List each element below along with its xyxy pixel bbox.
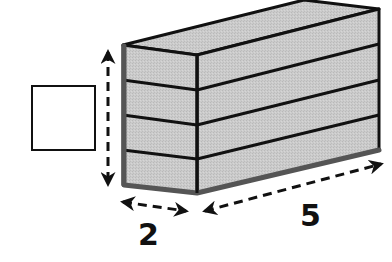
prism-diagram: 2 5 bbox=[0, 0, 392, 262]
diagram-canvas: 2 5 bbox=[0, 0, 392, 262]
length-label: 5 bbox=[300, 198, 321, 233]
width-label: 2 bbox=[138, 217, 159, 252]
answer-box[interactable] bbox=[32, 86, 95, 150]
width-arrow bbox=[123, 202, 186, 211]
